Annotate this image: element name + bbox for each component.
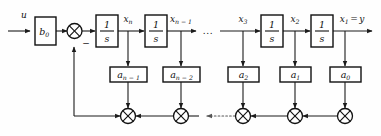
summing-junction-a-2: [236, 109, 251, 124]
coefficient-block-a-n-minus-2: an − 2: [163, 67, 200, 82]
gain-block-b0: b0: [35, 17, 56, 45]
signal-label-x-1-equals-y: x1=y: [340, 14, 366, 25]
top-row-ellipsis: ...: [203, 26, 213, 36]
integrator-block-4: 1 s: [311, 15, 333, 47]
integrator-block-3-numerator: 1: [269, 19, 275, 30]
signal-label-x-n: xn: [123, 14, 132, 25]
integrator-block-3-denominator: s: [270, 33, 275, 44]
signal-label-x-3: x3: [238, 14, 247, 25]
integrator-block-4-denominator: s: [320, 33, 325, 44]
coefficient-block-a-1: a1: [280, 67, 311, 82]
coefficient-to-sum-wires: [128, 82, 345, 108]
coefficient-block-a-0: a0: [330, 67, 361, 82]
integrator-block-1-numerator: 1: [104, 19, 110, 30]
integrator-block-2: 1 s: [145, 15, 167, 47]
summing-junction-a-n-minus-1: [121, 109, 136, 124]
summing-junction-a-1: [288, 109, 303, 124]
signal-label-x-n-minus-1: xn − 1: [170, 14, 192, 25]
block-diagram-canvas: b0 1 s 1 s 1 s 1 s: [0, 0, 381, 136]
negative-feedback-sign: −: [82, 38, 90, 48]
summing-junction-a-0: [338, 109, 353, 124]
integrator-block-2-denominator: s: [154, 33, 159, 44]
coefficient-block-a-n-minus-1: an − 1: [110, 67, 147, 82]
input-signal-label: u: [21, 10, 27, 20]
integrator-block-4-numerator: 1: [319, 19, 325, 30]
integrator-block-2-numerator: 1: [153, 19, 159, 30]
summing-junction-a-n-minus-2: [174, 109, 189, 124]
integrator-block-1: 1 s: [96, 15, 118, 47]
summing-junction-1: [67, 24, 82, 39]
integrator-block-3: 1 s: [261, 15, 283, 47]
integrator-block-1-denominator: s: [105, 33, 110, 44]
block-diagram-figure: b0 1 s 1 s 1 s 1 s: [0, 0, 381, 136]
coefficient-block-a-2: a2: [228, 67, 259, 82]
signal-label-x-2: x2: [290, 14, 299, 25]
